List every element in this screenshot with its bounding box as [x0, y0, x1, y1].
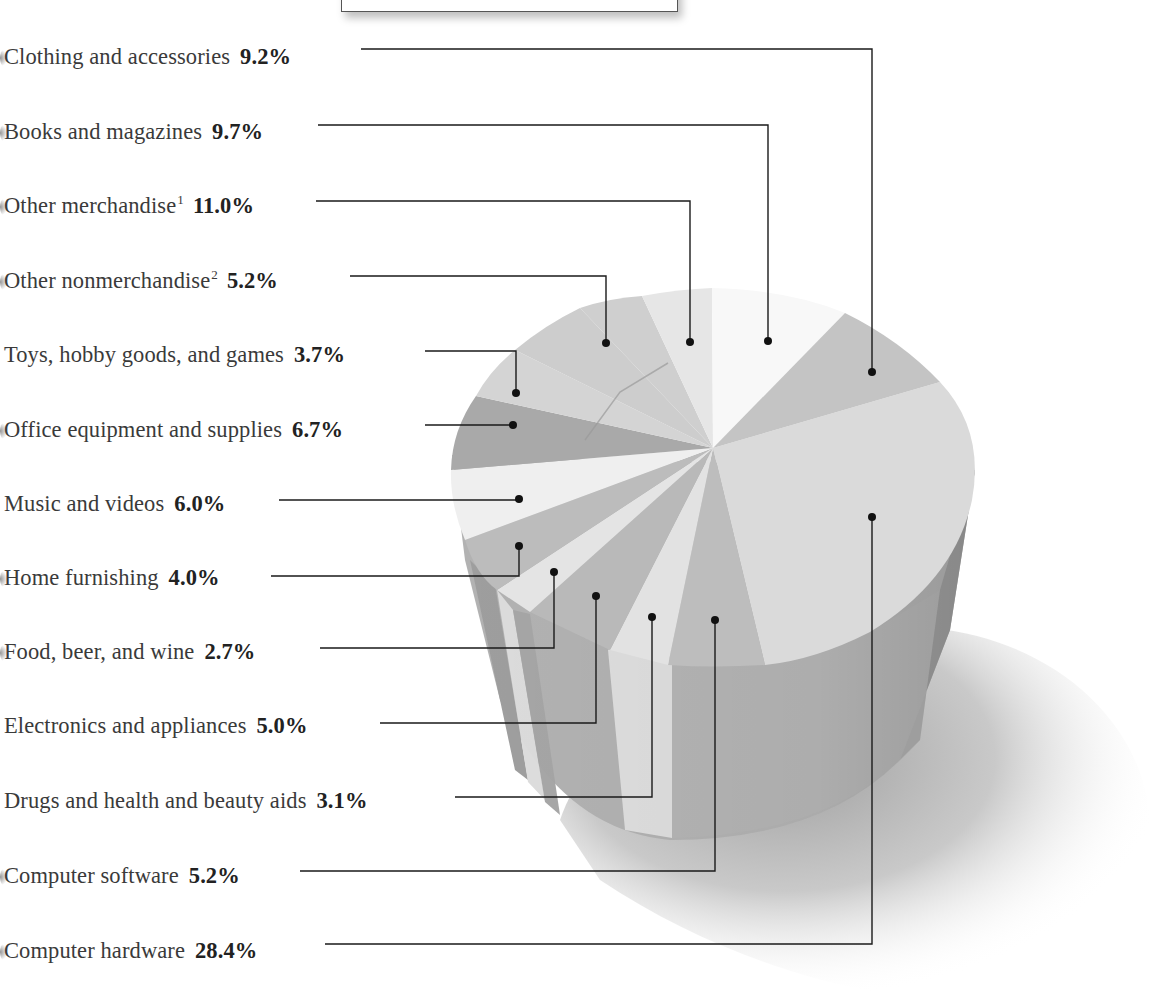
label-name: Books and magazines — [4, 119, 202, 144]
label-hardware: Computer hardware28.4% — [4, 940, 257, 963]
label-percent: 11.0% — [193, 193, 254, 218]
label-software: Computer software5.2% — [4, 865, 240, 888]
label-name: Food, beer, and wine — [4, 639, 194, 664]
label-food: Food, beer, and wine2.7% — [4, 641, 255, 664]
label-drugs: Drugs and health and beauty aids3.1% — [4, 790, 368, 813]
label-office: Office equipment and supplies6.7% — [4, 419, 343, 442]
label-name: Computer hardware — [4, 938, 185, 963]
label-home: Home furnishing4.0% — [4, 567, 220, 590]
label-books: Books and magazines9.7% — [4, 121, 263, 144]
label-percent: 6.0% — [174, 491, 225, 516]
label-percent: 5.2% — [227, 268, 278, 293]
label-music: Music and videos6.0% — [4, 493, 225, 516]
pie-top — [451, 288, 975, 667]
label-name: Toys, hobby goods, and games — [4, 342, 284, 367]
label-other-merchandise: Other merchandise111.0% — [4, 195, 254, 218]
label-percent: 9.7% — [212, 119, 263, 144]
label-percent: 6.7% — [292, 417, 343, 442]
label-percent: 5.0% — [257, 713, 308, 738]
label-percent: 2.7% — [204, 639, 255, 664]
label-electronics: Electronics and appliances5.0% — [4, 715, 308, 738]
label-percent: 3.7% — [294, 342, 345, 367]
label-name: Electronics and appliances — [4, 713, 247, 738]
footnote-marker: 2 — [211, 267, 218, 282]
label-name: Home furnishing — [4, 565, 159, 590]
label-percent: 4.0% — [169, 565, 220, 590]
footnote-marker: 1 — [177, 192, 184, 207]
label-name: Other merchandise — [4, 193, 176, 218]
label-clothing: Clothing and accessories9.2% — [4, 46, 291, 69]
label-percent: 9.2% — [240, 44, 291, 69]
label-other-nonmerchandise: Other nonmerchandise25.2% — [4, 270, 278, 293]
label-percent: 5.2% — [189, 863, 240, 888]
label-percent: 3.1% — [317, 788, 368, 813]
label-name: Other nonmerchandise — [4, 268, 210, 293]
label-name: Clothing and accessories — [4, 44, 230, 69]
label-name: Office equipment and supplies — [4, 417, 282, 442]
label-name: Computer software — [4, 863, 179, 888]
label-percent: 28.4% — [195, 938, 257, 963]
label-toys: Toys, hobby goods, and games3.7% — [4, 344, 345, 367]
label-name: Drugs and health and beauty aids — [4, 788, 307, 813]
label-name: Music and videos — [4, 491, 164, 516]
